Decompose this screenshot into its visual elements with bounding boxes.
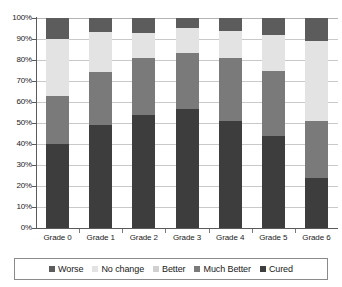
- x-axis: Grade 0Grade 1Grade 2Grade 3Grade 4Grade…: [36, 233, 338, 249]
- legend-item-much-better[interactable]: Much Better: [194, 264, 250, 274]
- bar-stack: [89, 18, 112, 228]
- bar-segment-much-better[interactable]: [132, 58, 155, 115]
- bar-segment-no-change[interactable]: [46, 39, 69, 96]
- x-tick-label: Grade 3: [173, 233, 201, 243]
- x-axis-line: [36, 228, 338, 229]
- x-tickmark: [165, 229, 166, 233]
- bar-group[interactable]: [305, 18, 328, 228]
- bar-segment-no-change[interactable]: [176, 28, 199, 53]
- bar-segment-worse[interactable]: [262, 18, 285, 35]
- bar-segment-much-better[interactable]: [305, 121, 328, 178]
- y-tick-label: 30%: [17, 161, 32, 169]
- x-tick-label: Grade 6: [302, 233, 330, 243]
- legend-swatch-icon: [92, 266, 98, 272]
- bar-segment-much-better[interactable]: [176, 53, 199, 109]
- stacked-bar-chart: 0%10%20%30%40%50%60%70%80%90%100% Grade …: [0, 0, 342, 287]
- bar-segment-worse[interactable]: [176, 18, 199, 28]
- legend-item-cured[interactable]: Cured: [260, 264, 293, 274]
- x-tick-label: Grade 5: [259, 233, 287, 243]
- bar-stack: [219, 18, 242, 228]
- y-tickmark: [32, 186, 36, 187]
- bar-group[interactable]: [176, 18, 199, 228]
- bar-segment-cured[interactable]: [219, 121, 242, 228]
- x-tick-label: Grade 2: [130, 233, 158, 243]
- x-tick-label: Grade 0: [43, 233, 71, 243]
- bar-segment-much-better[interactable]: [89, 72, 112, 126]
- legend-label: Cured: [269, 264, 293, 274]
- y-tick-label: 50%: [17, 119, 32, 127]
- y-tickmark: [32, 18, 36, 19]
- y-tick-label: 20%: [17, 182, 32, 190]
- y-tickmark: [32, 123, 36, 124]
- y-tick-label: 80%: [17, 56, 32, 64]
- x-tickmark: [209, 229, 210, 233]
- legend-swatch-icon: [260, 266, 266, 272]
- y-axis: 0%10%20%30%40%50%60%70%80%90%100%: [0, 12, 34, 228]
- legend-label: Much Better: [203, 264, 250, 274]
- legend-swatch-icon: [194, 266, 200, 272]
- x-tick-label: Grade 1: [87, 233, 115, 243]
- y-tick-label: 0%: [21, 224, 32, 232]
- bar-stack: [46, 18, 69, 228]
- y-tickmark: [32, 207, 36, 208]
- bar-segment-cured[interactable]: [262, 136, 285, 228]
- x-tickmark: [79, 229, 80, 233]
- bar-segment-cured[interactable]: [46, 144, 69, 228]
- bar-stack: [262, 18, 285, 228]
- bar-stack: [132, 18, 155, 228]
- bar-group[interactable]: [262, 18, 285, 228]
- plot-area: 0%10%20%30%40%50%60%70%80%90%100% Grade …: [0, 0, 342, 252]
- legend-label: No change: [101, 264, 144, 274]
- y-tickmark: [32, 102, 36, 103]
- bars-container: [36, 18, 338, 228]
- y-tickmark: [32, 165, 36, 166]
- legend-label: Better: [162, 264, 185, 274]
- bar-segment-no-change[interactable]: [262, 35, 285, 71]
- x-tickmark: [252, 229, 253, 233]
- bar-segment-no-change[interactable]: [219, 31, 242, 58]
- bar-segment-much-better[interactable]: [219, 58, 242, 121]
- y-tickmark: [32, 144, 36, 145]
- y-tickmark: [32, 39, 36, 40]
- y-tickmark: [32, 81, 36, 82]
- bar-segment-cured[interactable]: [305, 178, 328, 228]
- bar-group[interactable]: [132, 18, 155, 228]
- bar-segment-cured[interactable]: [89, 125, 112, 228]
- y-tick-label: 70%: [17, 77, 32, 85]
- x-tickmark: [295, 229, 296, 233]
- bar-group[interactable]: [89, 18, 112, 228]
- legend-item-no-change[interactable]: No change: [92, 264, 144, 274]
- bar-segment-worse[interactable]: [46, 18, 69, 39]
- y-tick-label: 10%: [17, 203, 32, 211]
- bar-segment-no-change[interactable]: [305, 41, 328, 121]
- y-tickmark: [32, 228, 36, 229]
- legend-item-better[interactable]: Better: [153, 264, 185, 274]
- bar-group[interactable]: [46, 18, 69, 228]
- y-tick-label: 100%: [12, 14, 32, 22]
- bar-segment-much-better[interactable]: [46, 96, 69, 144]
- legend-swatch-icon: [49, 266, 55, 272]
- bar-segment-much-better[interactable]: [262, 71, 285, 136]
- bar-group[interactable]: [219, 18, 242, 228]
- bar-segment-worse[interactable]: [305, 18, 328, 41]
- bar-stack: [305, 18, 328, 228]
- legend-swatch-icon: [153, 266, 159, 272]
- legend-label: Worse: [58, 264, 83, 274]
- bar-segment-worse[interactable]: [219, 18, 242, 31]
- legend-item-worse[interactable]: Worse: [49, 264, 83, 274]
- bar-segment-cured[interactable]: [176, 109, 199, 228]
- bar-segment-cured[interactable]: [132, 115, 155, 228]
- bar-segment-worse[interactable]: [89, 18, 112, 32]
- x-tickmark: [122, 229, 123, 233]
- y-tick-label: 90%: [17, 35, 32, 43]
- y-tickmark: [32, 60, 36, 61]
- bar-segment-no-change[interactable]: [132, 33, 155, 58]
- bar-segment-worse[interactable]: [132, 18, 155, 33]
- x-tick-label: Grade 4: [216, 233, 244, 243]
- bar-stack: [176, 18, 199, 228]
- chart-legend: WorseNo changeBetterMuch BetterCured: [14, 258, 328, 280]
- bar-segment-no-change[interactable]: [89, 32, 112, 71]
- y-tick-label: 60%: [17, 98, 32, 106]
- y-tick-label: 40%: [17, 140, 32, 148]
